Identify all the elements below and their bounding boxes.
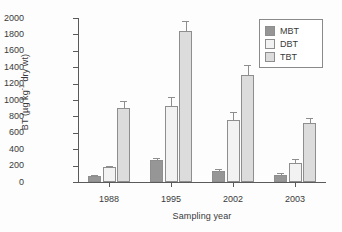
legend-swatch-icon <box>265 52 275 62</box>
y-tick-label: 200 <box>0 161 24 170</box>
y-tick-label: 600 <box>0 128 24 137</box>
x-tick-mark <box>171 182 172 187</box>
bar-mbt-2003 <box>274 175 287 182</box>
legend-item-dbt: DBT <box>265 37 317 50</box>
x-tick-label: 1995 <box>141 194 201 204</box>
error-bar-cap <box>277 173 284 174</box>
y-tick-label: 400 <box>0 145 24 154</box>
x-axis-line <box>78 182 326 183</box>
x-tick-label: 1988 <box>79 194 139 204</box>
bar-tbt-2003 <box>303 123 316 182</box>
error-bar-cap <box>306 118 313 119</box>
y-tick-label: 1800 <box>0 30 24 39</box>
y-tick-label: 1200 <box>0 79 24 88</box>
y-tick-label: 1600 <box>0 46 24 55</box>
legend-item-tbt: TBT <box>265 50 317 63</box>
x-tick-label: 2003 <box>265 194 325 204</box>
y-tick-label: 800 <box>0 112 24 121</box>
error-bar-cap <box>292 159 299 160</box>
legend-label: TBT <box>280 52 297 62</box>
x-axis-title: Sampling year <box>78 211 326 221</box>
legend-item-mbt: MBT <box>265 24 317 37</box>
bar-dbt-2003 <box>289 163 302 182</box>
legend-label: MBT <box>280 26 299 36</box>
legend: MBTDBTTBT <box>259 19 323 68</box>
x-tick-mark <box>295 182 296 187</box>
x-tick-mark <box>233 182 234 187</box>
legend-swatch-icon <box>265 26 275 36</box>
legend-label: DBT <box>280 39 298 49</box>
legend-swatch-icon <box>265 39 275 49</box>
bar-chart-figure: BT (µg kg-1 dry wt) Sampling year 020040… <box>0 0 342 232</box>
y-tick-label: 1000 <box>0 96 24 105</box>
y-tick-label: 2000 <box>0 14 24 23</box>
x-tick-mark <box>109 182 110 187</box>
x-tick-label: 2002 <box>203 194 263 204</box>
y-tick-label: 1400 <box>0 63 24 72</box>
y-tick-mark <box>73 182 78 183</box>
y-tick-label: 0 <box>0 178 24 187</box>
